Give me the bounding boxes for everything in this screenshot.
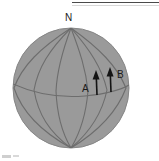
point-b-label: B (117, 70, 124, 80)
bottom-left-artifact (2, 155, 11, 158)
globe-graphic (0, 0, 159, 161)
point-a-label: A (82, 84, 89, 94)
bottom-left-artifact-secondary (13, 155, 19, 157)
figure-canvas: N A B (0, 0, 159, 161)
north-pole-label: N (65, 13, 72, 23)
